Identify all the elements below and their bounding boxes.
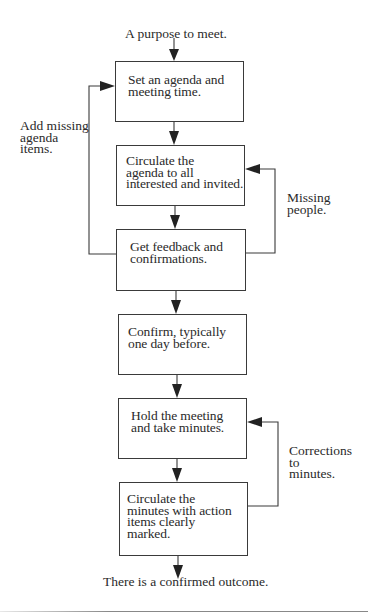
step-text: Set an agenda and meeting time. [128, 74, 224, 97]
step-box-get-feedback: Get feedback and confirmations. [116, 229, 246, 291]
step-box-confirm: Confirm, typically one day before. [118, 314, 247, 375]
start-label: A purpose to meet. [125, 28, 227, 40]
step-box-circulate-minutes: Circulate the minutes with action items … [119, 482, 248, 556]
loop-label-missing-people: Missing people. [287, 192, 331, 215]
step-text: Circulate the agenda to all interested a… [126, 155, 243, 190]
step-text: Circulate the minutes with action items … [127, 493, 232, 539]
step-text: Get feedback and confirmations. [130, 241, 223, 264]
step-box-hold-meeting: Hold the meeting and take minutes. [118, 398, 247, 459]
loop-label-corrections: Corrections to minutes. [289, 445, 352, 480]
step-text: Confirm, typically one day before. [128, 326, 226, 349]
step-box-set-agenda: Set an agenda and meeting time. [115, 61, 244, 122]
end-label: There is a confirmed outcome. [103, 576, 268, 588]
loop-label-missing-agenda-items: Add missing agenda items. [20, 120, 89, 155]
step-box-circulate-agenda: Circulate the agenda to all interested a… [116, 145, 245, 206]
bottom-divider [0, 611, 368, 612]
step-text: Hold the meeting and take minutes. [131, 410, 224, 433]
